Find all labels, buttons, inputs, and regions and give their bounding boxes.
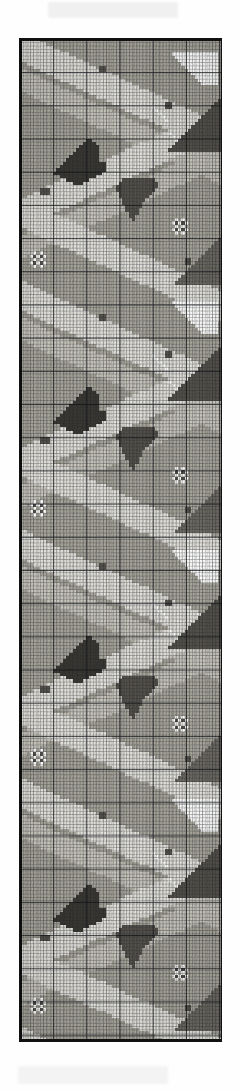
pattern-chart-panel	[19, 38, 222, 1042]
bottom-scan-smudge	[18, 1066, 168, 1084]
chart-bottom-rule	[20, 1039, 221, 1041]
page-canvas	[0, 0, 241, 1090]
top-scan-smudge	[48, 2, 178, 18]
pattern-motif-artwork	[20, 39, 221, 1041]
chart-top-rule	[20, 39, 221, 41]
